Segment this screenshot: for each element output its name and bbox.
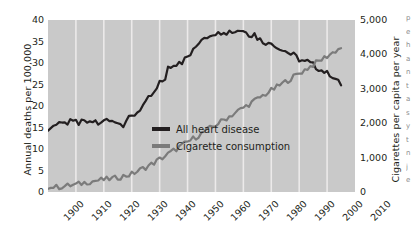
legend-swatch-cigarette-consumption <box>152 144 170 148</box>
y-axis-right-title: Cigarettes per capita per year <box>390 25 401 195</box>
y-tick-right: 0 <box>360 187 366 197</box>
figure: 4035302520151050 Annual deaths per 100,0… <box>0 0 419 237</box>
edge-text-line: a <box>406 93 419 107</box>
edge-text-line: n <box>406 66 419 80</box>
legend-item-cigarette-consumption: Cigarette consumption <box>152 139 290 153</box>
x-tick: 1980 <box>284 198 309 223</box>
x-tick: 1960 <box>229 198 254 223</box>
legend-item-all-heart-disease: All heart disease <box>152 122 290 136</box>
legend-label-all-heart-disease: All heart disease <box>176 124 259 135</box>
x-tick: 1950 <box>201 198 226 223</box>
edge-text-line: p <box>406 12 419 26</box>
y-tick-right: 3,000 <box>360 84 387 94</box>
y-tick-right: 4,000 <box>360 49 387 59</box>
series-line-all-heart-disease <box>48 31 341 131</box>
y-axis-left-title: Annual deaths per 100,000 <box>22 25 33 195</box>
x-tick: 1990 <box>312 198 337 223</box>
y-tick-right: 2,000 <box>360 118 387 128</box>
legend: All heart disease Cigarette consumption <box>152 122 290 153</box>
edge-text-line: j <box>406 161 419 175</box>
x-tick: 1910 <box>89 198 114 223</box>
edge-text-line: n <box>406 147 419 161</box>
legend-swatch-all-heart-disease <box>152 127 170 131</box>
x-tick: 1970 <box>256 198 281 223</box>
edge-text-line: s <box>406 107 419 121</box>
x-tick: 1920 <box>117 198 142 223</box>
edge-text-line: e <box>406 26 419 40</box>
y-tick-right: 5,000 <box>360 15 387 25</box>
edge-text-line: t <box>406 134 419 148</box>
legend-label-cigarette-consumption: Cigarette consumption <box>176 141 290 152</box>
plot-area <box>48 20 355 192</box>
edge-text-line: t <box>406 80 419 94</box>
y-tick-left: 40 <box>10 15 44 25</box>
page-edge-text: pehantasytnje <box>406 12 419 218</box>
x-tick: 1930 <box>145 198 170 223</box>
edge-text-line: h <box>406 39 419 53</box>
edge-text-line: y <box>406 120 419 134</box>
series-line-cigarette-consumption <box>48 48 341 189</box>
edge-text-line: e <box>406 174 419 188</box>
plot-svg <box>48 20 355 192</box>
y-tick-right: 1,000 <box>360 153 387 163</box>
edge-text-line: a <box>406 53 419 67</box>
x-tick: 1940 <box>173 198 198 223</box>
x-tick: 1900 <box>61 198 86 223</box>
